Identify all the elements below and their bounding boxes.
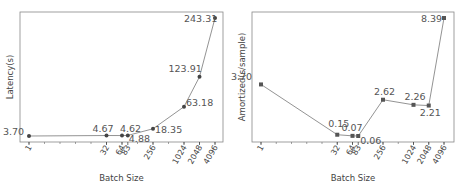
data-point <box>442 16 446 20</box>
data-label: 2.26 <box>405 91 426 102</box>
data-point <box>335 133 339 137</box>
x-tick-label: 1 <box>23 144 33 153</box>
x-tick-label: 2048 <box>186 144 204 166</box>
x-tick-label: 1024 <box>400 144 418 166</box>
data-point <box>381 98 385 102</box>
x-tick-label: 4096 <box>431 144 449 166</box>
x-tick-label: 256 <box>372 144 387 162</box>
data-label: 123.91 <box>169 63 202 74</box>
chart-canvas: 3.7014.67324.62644.888318.3525663.181024… <box>0 0 462 190</box>
data-point <box>105 134 109 138</box>
y-axis-label: Latency(s) <box>5 55 15 100</box>
x-tick-label: 32 <box>329 144 342 157</box>
data-label: 0.07 <box>342 122 363 133</box>
x-tick-label: 4096 <box>202 144 220 166</box>
x-axis-label: Batch Size <box>331 173 376 183</box>
x-tick-label: 1024 <box>171 144 189 166</box>
x-tick-label: 256 <box>142 144 157 162</box>
x-tick-label: 1 <box>255 144 265 153</box>
y-axis-label: Amortized(s/sample) <box>237 33 247 121</box>
x-tick-label: 2048 <box>416 144 434 166</box>
x-axis-label: Batch Size <box>99 173 144 183</box>
data-label: 18.35 <box>155 124 182 135</box>
data-label: 243.31 <box>184 13 217 24</box>
data-label: 4.88 <box>129 133 150 144</box>
x-tick-label: 32 <box>98 144 111 157</box>
data-label: 4.62 <box>120 123 141 134</box>
data-point <box>198 75 202 79</box>
data-label: 2.21 <box>420 107 441 118</box>
data-label: 3.70 <box>3 126 24 137</box>
data-point <box>120 134 124 138</box>
data-point <box>412 103 416 107</box>
series-line <box>261 18 444 136</box>
data-point <box>351 134 355 138</box>
data-label: 2.62 <box>374 86 395 97</box>
data-label: 0.06 <box>360 135 381 146</box>
data-label: 63.18 <box>186 97 213 108</box>
data-point <box>27 134 31 138</box>
data-label: 8.39 <box>421 13 442 24</box>
data-label: 4.67 <box>93 123 114 134</box>
series-line <box>29 18 215 136</box>
data-point <box>259 82 263 86</box>
